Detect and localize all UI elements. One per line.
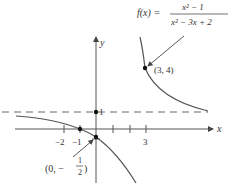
- tick-label-neg1: −1: [72, 137, 82, 147]
- tick-label-3: 3: [143, 137, 148, 147]
- svg-text:2: 2: [78, 168, 82, 177]
- svg-text:): ): [84, 163, 87, 175]
- tick-label-neg2: −2: [55, 137, 65, 147]
- curve-upper-right-branch: [140, 37, 208, 111]
- svg-text:1: 1: [78, 156, 82, 165]
- svg-text:x² − 3x + 2: x² − 3x + 2: [170, 17, 212, 27]
- point-y-intercept-1: [94, 110, 98, 114]
- graph: y x −2 −1 3 1 (3, 4) (0, − 1 2 ) f(x) = …: [0, 0, 235, 185]
- svg-text:(0, −: (0, −: [45, 163, 64, 175]
- point-label-3-4: (3, 4): [154, 65, 174, 75]
- point-3-4: [143, 66, 147, 70]
- y-axis-label: y: [99, 37, 105, 48]
- x-axis-label: x: [216, 123, 222, 134]
- curve-left-branch: [16, 116, 136, 183]
- pointer-arrow-function: [148, 36, 184, 66]
- point-0-neg-half: [94, 135, 98, 139]
- point-label-0-neg-half: (0, − 1 2 ): [45, 156, 87, 177]
- svg-text:x² − 1: x² − 1: [181, 2, 204, 12]
- svg-text:f(x) =: f(x) =: [137, 7, 160, 19]
- point-x-intercept: [78, 127, 82, 131]
- function-formula: f(x) = x² − 1 x² − 3x + 2: [137, 2, 228, 27]
- tick-label-y1: 1: [99, 107, 104, 117]
